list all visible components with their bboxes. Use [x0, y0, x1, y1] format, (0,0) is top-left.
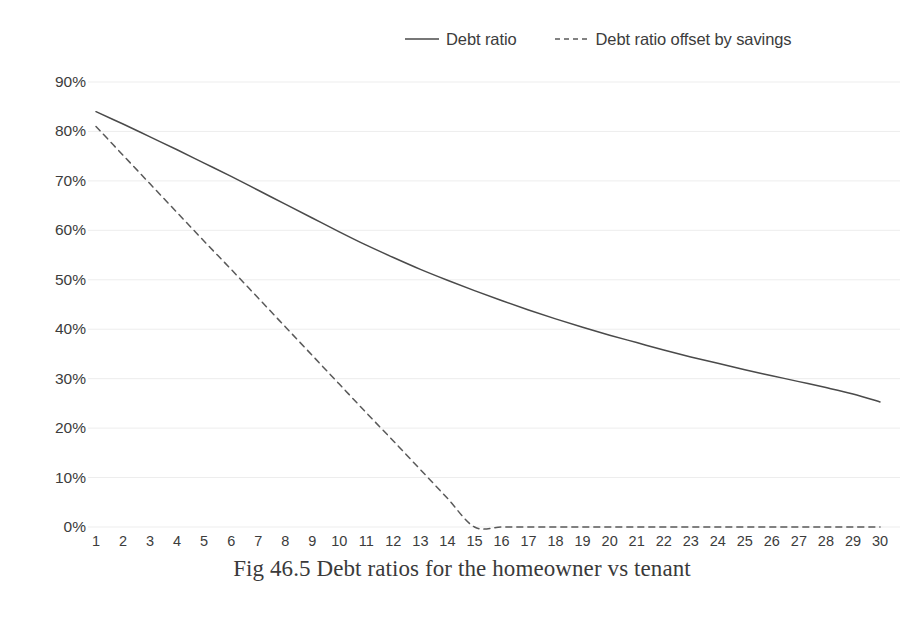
x-axis-tick-labels: 1234567891011121314151617181920212223242…	[0, 0, 924, 619]
chart-legend: Debt ratio Debt ratio offset by savings	[405, 27, 791, 51]
legend-label-debt-ratio-offset-by-savings: Debt ratio offset by savings	[596, 30, 792, 49]
legend-label-debt-ratio: Debt ratio	[446, 30, 517, 49]
solid-line-swatch-icon	[405, 34, 439, 44]
x-axis-tick-label: 30	[863, 533, 897, 549]
legend-entry-debt-ratio[interactable]: Debt ratio	[405, 30, 517, 49]
figure-container: 0%10%20%30%40%50%60%70%80%90% 1234567891…	[0, 0, 924, 619]
dashed-line-swatch-icon	[555, 34, 589, 44]
legend-entry-debt-ratio-offset-by-savings[interactable]: Debt ratio offset by savings	[555, 30, 792, 49]
figure-caption: Fig 46.5 Debt ratios for the homeowner v…	[0, 556, 924, 582]
